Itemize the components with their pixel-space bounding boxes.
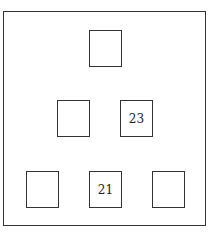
pyramid-cell-bottom-middle: 21	[89, 171, 122, 208]
pyramid-cell-middle-right: 23	[120, 100, 153, 137]
pyramid-cell-top	[89, 30, 122, 67]
pyramid-cell-bottom-right	[152, 171, 185, 208]
pyramid-cell-middle-left	[57, 100, 90, 137]
pyramid-cell-bottom-left	[26, 171, 59, 208]
